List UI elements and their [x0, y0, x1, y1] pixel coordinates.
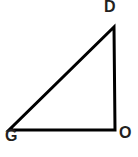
- triangle-shape: [0, 0, 138, 157]
- vertex-label-d: D: [104, 0, 116, 15]
- vertex-label-o: O: [119, 125, 131, 141]
- vertex-label-g: G: [5, 128, 17, 144]
- triangle-outline: [9, 27, 115, 130]
- triangle-figure: D O G: [0, 0, 138, 157]
